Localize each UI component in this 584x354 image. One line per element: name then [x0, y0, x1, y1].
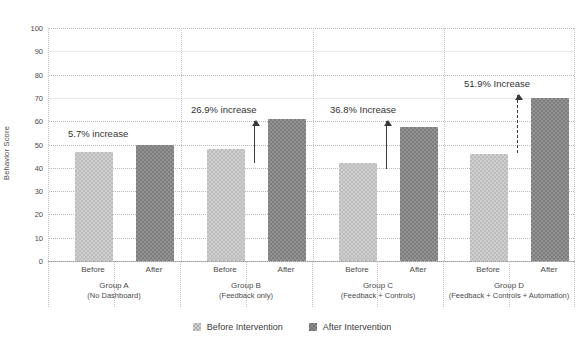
y-tick-100: 100 [30, 24, 43, 33]
chart-legend: Before Intervention After Intervention [0, 322, 584, 332]
group-separator-2 [313, 28, 314, 261]
bar-group-a-after[interactable] [136, 145, 174, 262]
x-tick-group-c-after: After [410, 265, 427, 274]
y-tick-90: 90 [35, 47, 43, 56]
gridline-50 [49, 145, 574, 146]
plot-area: 100 90 80 70 60 50 40 30 20 10 0 5.7% in… [48, 28, 575, 261]
group-label-b-sub: (Feedback only) [219, 291, 273, 300]
legend-label-after: After Intervention [323, 322, 392, 332]
x-separator-bc [312, 261, 313, 307]
legend-swatch-before-icon [193, 323, 201, 331]
group-label-a-sub: (No Dashboard) [87, 291, 140, 300]
group-label-b-name: Group B [219, 281, 273, 290]
x-tick-group-a-before: Before [81, 265, 105, 274]
group-label-c-name: Group C [341, 281, 415, 290]
bar-chart-figure: Behavior Score 100 90 80 70 60 50 40 30 … [0, 0, 584, 354]
group-label-d-name: Group D [449, 281, 569, 290]
legend-item-after[interactable]: After Intervention [309, 322, 392, 332]
y-tick-10: 10 [35, 233, 43, 242]
y-tick-60: 60 [35, 117, 43, 126]
x-tick-group-d-after: After [541, 265, 558, 274]
bar-group-d-after[interactable] [531, 98, 569, 261]
group-label-d-sub: (Feedback + Controls + Automation) [449, 291, 569, 300]
y-axis-title: Behavior Score [2, 108, 11, 198]
bar-group-c-after[interactable] [400, 127, 438, 261]
y-tick-20: 20 [35, 210, 43, 219]
y-tick-50: 50 [35, 140, 43, 149]
x-separator-ab [180, 261, 181, 307]
x-tick-group-c-before: Before [345, 265, 369, 274]
annotation-group-d: 51.9% Increase [464, 78, 530, 89]
x-tick-group-d-before: Before [476, 265, 500, 274]
page-title [0, 0, 584, 1]
y-tick-30: 30 [35, 187, 43, 196]
y-tick-80: 80 [35, 70, 43, 79]
bar-group-c-before[interactable] [339, 163, 377, 261]
y-tick-70: 70 [35, 93, 43, 102]
group-label-c-sub: (Feedback + Controls) [341, 291, 415, 300]
bar-group-a-before[interactable] [75, 152, 113, 262]
bar-group-b-before[interactable] [207, 149, 245, 261]
legend-item-before[interactable]: Before Intervention [193, 322, 283, 332]
group-label-a: Group A (No Dashboard) [87, 281, 140, 300]
gridline-100 [49, 28, 574, 29]
group-separator-3 [444, 28, 445, 261]
x-tick-group-a-after: After [146, 265, 163, 274]
gridline-70 [49, 98, 574, 99]
group-label-a-name: Group A [87, 281, 140, 290]
x-separator-left [48, 261, 49, 307]
group-label-b: Group B (Feedback only) [219, 281, 273, 300]
x-separator-cd [443, 261, 444, 307]
group-separator-1 [181, 28, 182, 261]
legend-label-before: Before Intervention [207, 322, 283, 332]
y-tick-0: 0 [39, 257, 43, 266]
x-tick-group-b-before: Before [213, 265, 237, 274]
arrow-group-c [386, 121, 387, 169]
bar-group-d-before[interactable] [470, 154, 508, 261]
x-tick-group-b-after: After [278, 265, 295, 274]
group-label-d: Group D (Feedback + Controls + Automatio… [449, 281, 569, 300]
gridline-80 [49, 75, 574, 76]
bar-group-b-after[interactable] [268, 119, 306, 261]
annotation-group-c: 36.8% Increase [330, 104, 396, 115]
arrow-group-d [517, 95, 518, 153]
gridline-90 [49, 51, 574, 52]
arrow-group-b [254, 121, 255, 163]
annotation-group-a: 5.7% increase [68, 128, 128, 139]
y-tick-40: 40 [35, 163, 43, 172]
x-separator-right [574, 261, 575, 307]
legend-swatch-after-icon [309, 323, 317, 331]
gridline-60 [49, 121, 574, 122]
annotation-group-b: 26.9% increase [191, 104, 256, 115]
group-label-c: Group C (Feedback + Controls) [341, 281, 415, 300]
x-axis-labels: Before After Before After Before After B… [48, 261, 575, 313]
